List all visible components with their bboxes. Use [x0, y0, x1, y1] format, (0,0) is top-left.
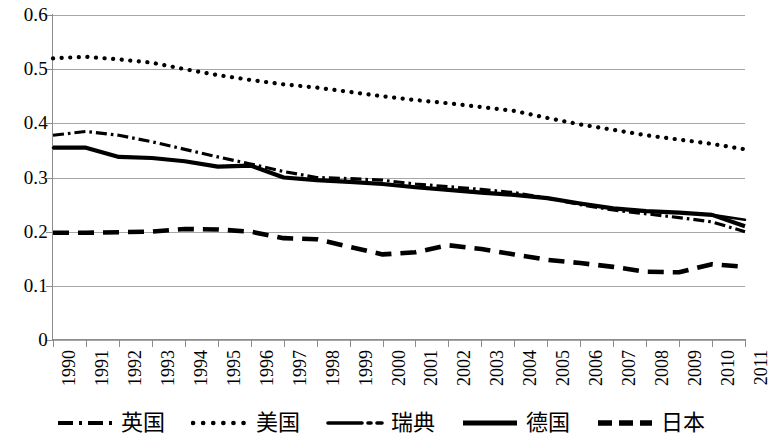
x-tick-mark	[712, 340, 713, 347]
x-axis-label: 2006	[587, 350, 605, 386]
legend-item-英国[interactable]: 英国	[56, 412, 165, 434]
x-axis-label: 1999	[357, 350, 375, 386]
y-axis-label: 0.3	[4, 168, 48, 187]
series-line-日本	[53, 229, 745, 272]
solid-thin-swatch	[326, 416, 384, 430]
x-axis-label: 2003	[488, 350, 506, 386]
x-axis-label: 1995	[225, 350, 243, 386]
x-axis-label: 2007	[620, 350, 638, 386]
dash-dot-swatch	[56, 416, 114, 430]
grid-line	[53, 178, 745, 179]
x-axis-label: 1992	[126, 350, 144, 386]
x-tick-mark	[547, 340, 548, 347]
x-tick-mark	[86, 340, 87, 347]
y-axis-label: 0.4	[4, 113, 48, 132]
x-tick-mark	[53, 340, 54, 347]
x-tick-mark	[448, 340, 449, 347]
legend-label: 美国	[256, 412, 300, 434]
x-tick-mark	[481, 340, 482, 347]
x-tick-mark	[218, 340, 219, 347]
solid-thick-swatch	[461, 416, 519, 430]
legend-label: 德国	[526, 412, 570, 434]
x-tick-mark	[119, 340, 120, 347]
grid-line	[53, 232, 745, 233]
grid-line	[53, 286, 745, 287]
x-axis-line	[52, 339, 746, 340]
x-axis-label: 1994	[192, 350, 210, 386]
y-axis-label: 0	[4, 330, 48, 349]
x-tick-mark	[613, 340, 614, 347]
legend-label: 英国	[121, 412, 165, 434]
x-axis-label: 2009	[686, 350, 704, 386]
x-axis-label: 2000	[390, 350, 408, 386]
x-tick-mark	[152, 340, 153, 347]
x-tick-mark	[646, 340, 647, 347]
x-tick-mark	[350, 340, 351, 347]
x-axis-label: 2004	[521, 350, 539, 386]
series-line-英国	[53, 131, 745, 231]
legend-item-瑞典[interactable]: 瑞典	[326, 412, 435, 434]
legend-label: 日本	[661, 412, 705, 434]
y-axis-labels: 0.60.50.40.30.20.10	[0, 0, 48, 441]
x-tick-mark	[745, 340, 746, 347]
grid-line	[53, 69, 745, 70]
y-axis-label: 0.1	[4, 276, 48, 295]
legend-label: 瑞典	[391, 412, 435, 434]
x-axis-label: 2005	[554, 350, 572, 386]
x-tick-mark	[580, 340, 581, 347]
x-tick-mark	[185, 340, 186, 347]
x-axis-label: 2008	[653, 350, 671, 386]
y-axis-label: 0.6	[4, 5, 48, 24]
x-tick-mark	[383, 340, 384, 347]
y-axis-label: 0.2	[4, 222, 48, 241]
grid-line	[53, 123, 745, 124]
series-line-瑞典	[53, 148, 745, 220]
series-line-美国	[53, 57, 745, 150]
x-axis-label: 2002	[455, 350, 473, 386]
legend-item-德国[interactable]: 德国	[461, 412, 570, 434]
x-axis-label: 1991	[93, 350, 111, 386]
dotted-swatch	[191, 416, 249, 430]
x-axis-label: 1993	[159, 350, 177, 386]
grid-line	[53, 15, 745, 16]
x-axis-label: 2001	[422, 350, 440, 386]
series-line-德国	[53, 148, 745, 227]
x-axis-label: 2011	[752, 350, 770, 385]
x-tick-mark	[251, 340, 252, 347]
x-tick-mark	[317, 340, 318, 347]
x-axis-label: 1990	[60, 350, 78, 386]
x-tick-mark	[679, 340, 680, 347]
legend-item-日本[interactable]: 日本	[596, 412, 705, 434]
x-axis-label: 1996	[258, 350, 276, 386]
long-dash-swatch	[596, 416, 654, 430]
x-axis-label: 1998	[324, 350, 342, 386]
grid-line	[53, 340, 745, 341]
x-tick-mark	[415, 340, 416, 347]
legend-item-美国[interactable]: 美国	[191, 412, 300, 434]
x-axis-label: 2010	[719, 350, 737, 386]
x-tick-mark	[514, 340, 515, 347]
x-tick-mark	[284, 340, 285, 347]
chart-legend: 英国美国瑞典德国日本	[0, 404, 760, 441]
y-axis-label: 0.5	[4, 59, 48, 78]
x-axis-label: 1997	[291, 350, 309, 386]
